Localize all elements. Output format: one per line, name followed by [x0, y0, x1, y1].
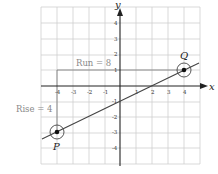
y-axis-label: y — [114, 0, 121, 10]
y-tick: 4 — [114, 20, 118, 26]
x-tick: -3 — [71, 89, 77, 95]
x-axis-arrow-icon — [200, 83, 208, 89]
x-tick: -2 — [87, 89, 92, 95]
x-axis-label: x — [209, 81, 215, 92]
x-tick: 4 — [183, 89, 187, 95]
point-p-label: P — [52, 141, 60, 152]
y-tick: -2 — [112, 114, 117, 120]
y-tick: -4 — [112, 145, 118, 151]
y-tick: 3 — [114, 36, 118, 42]
point-q-label: Q — [180, 50, 188, 61]
y-tick: 1 — [114, 67, 118, 73]
y-tick: -3 — [112, 129, 118, 135]
x-tick: 3 — [167, 89, 171, 95]
x-tick: 2 — [151, 89, 155, 95]
point-p — [55, 130, 60, 135]
x-tick: -4 — [55, 89, 61, 95]
run-label: Run = 8 — [76, 58, 111, 68]
point-q — [182, 68, 187, 73]
coordinate-plane: x y -4 -3 -2 -1 1 2 3 4 4 3 2 1 -1 -2 -3… — [0, 0, 218, 174]
y-tick: 2 — [114, 51, 118, 57]
rise-label: Rise = 4 — [16, 104, 52, 114]
x-tick: -1 — [103, 89, 108, 95]
